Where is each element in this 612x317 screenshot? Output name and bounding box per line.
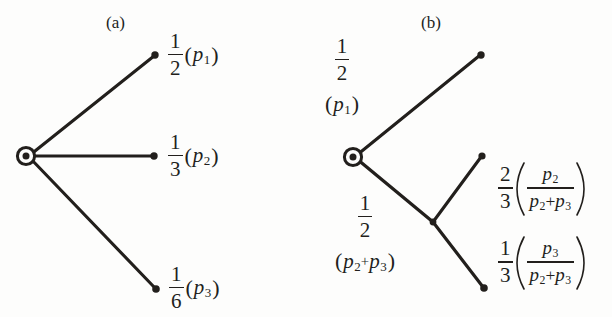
plus-sign-b-3: + — [545, 191, 555, 211]
paren-close-b-2: ) — [387, 250, 396, 272]
big-paren-close-b-3 — [576, 162, 585, 214]
probability-tree-figure: (a) (b) 1 2 ( p1 ) 1 3 ( p2 ) — [0, 0, 612, 317]
event-symbol-b-2-first: p2 — [343, 251, 361, 272]
edge-a-1 — [30, 56, 154, 155]
leaf-node-b-2 — [478, 152, 485, 159]
fraction-b-3: 2 3 — [497, 163, 514, 212]
paren-close-a-1: ) — [210, 44, 219, 66]
branch-label-a-3: 1 6 ( p3 ) — [168, 263, 221, 312]
branch-label-b-1: 1 2 ( p1 ) — [324, 35, 360, 115]
nested-denominator-b-3-first: p2 — [530, 190, 546, 211]
leaf-node-a-1 — [151, 51, 158, 58]
root-node-a — [17, 147, 34, 164]
event-symbol-b-1: p1 — [333, 94, 351, 115]
branch-label-b-2: 1 2 ( p2 + p3 ) — [311, 192, 419, 272]
nested-fraction-b-4: p3 p2+p3 — [527, 238, 575, 285]
paren-open-b-2: ( — [334, 250, 343, 272]
panel-title-b: (b) — [421, 14, 441, 31]
fraction-a-1: 1 2 — [167, 30, 184, 79]
nested-denominator-b-3-second: p3 — [555, 190, 571, 211]
paren-open-a-3: ( — [185, 277, 194, 299]
fraction-bar — [527, 187, 575, 189]
leaf-node-b-3 — [480, 284, 488, 292]
panel-title-a: (a) — [106, 14, 125, 31]
branch-label-a-1: 1 2 ( p1 ) — [167, 30, 220, 79]
leaf-node-a-2 — [150, 152, 157, 159]
edge-b-1 — [357, 56, 479, 155]
event-symbol-a-3: p3 — [194, 277, 212, 298]
event-symbol-a-1: p1 — [193, 44, 211, 65]
branch-label-a-2: 1 3 ( p2 ) — [167, 131, 220, 180]
event-symbol-a-2: p2 — [193, 145, 211, 166]
fraction-b-2: 1 2 — [357, 192, 374, 241]
paren-close-a-3: ) — [211, 277, 220, 299]
plus-sign-b-4: + — [545, 265, 555, 285]
root-node-b — [344, 148, 361, 165]
big-paren-open-b-3 — [516, 162, 525, 214]
nested-denominator-b-4-second: p3 — [555, 264, 571, 285]
paren-open-a-1: ( — [184, 44, 193, 66]
event-symbol-b-2-second: p3 — [369, 251, 387, 272]
leaf-node-a-3 — [152, 285, 160, 293]
branch-label-b-4: 1 3 p3 p2+p3 — [497, 236, 585, 288]
fraction-b-1: 1 2 — [334, 35, 351, 84]
big-paren-close-b-4 — [576, 236, 585, 288]
nested-numerator-b-3: p2 — [542, 163, 558, 184]
paren-open-a-2: ( — [184, 145, 193, 167]
nested-fraction-b-3: p2 p2+p3 — [527, 164, 575, 211]
paren-close-b-1: ) — [351, 93, 360, 115]
fraction-a-3: 1 6 — [168, 263, 185, 312]
fraction-b-4: 1 3 — [497, 237, 514, 286]
leaf-node-b-1 — [477, 51, 484, 58]
nested-denominator-b-4-first: p2 — [530, 264, 546, 285]
paren-close-a-2: ) — [210, 145, 219, 167]
fraction-bar — [527, 261, 575, 263]
edge-a-3 — [30, 158, 155, 288]
big-paren-open-b-4 — [516, 236, 525, 288]
plus-sign-b-2: + — [361, 254, 369, 269]
edge-b-3 — [433, 157, 481, 222]
nested-numerator-b-4: p3 — [542, 237, 558, 258]
fork-node-b — [430, 219, 437, 226]
branch-label-b-3: 2 3 p2 p2+p3 — [497, 162, 585, 214]
edge-b-4 — [433, 222, 483, 287]
paren-open-b-1: ( — [324, 93, 333, 115]
fraction-a-2: 1 3 — [167, 131, 184, 180]
